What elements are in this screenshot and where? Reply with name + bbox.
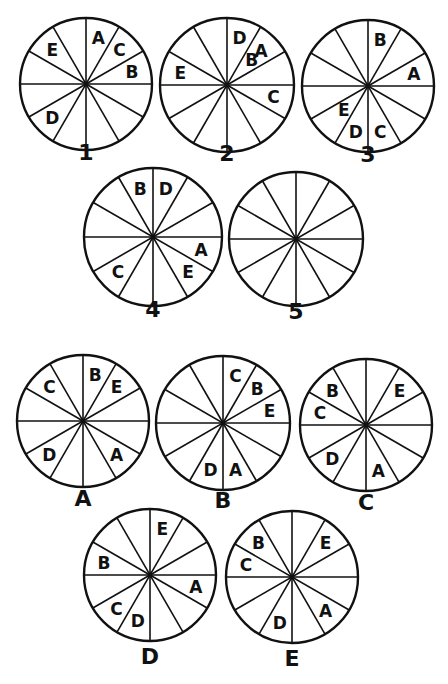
center-dot: [221, 421, 226, 426]
segment-letter: C: [110, 599, 122, 619]
segment-letter: D: [232, 28, 246, 48]
center-dot: [366, 84, 371, 89]
option-circle-D[interactable]: EADCBD: [84, 509, 216, 669]
option-label: C: [358, 490, 374, 515]
option-label: D: [141, 644, 159, 669]
question-label: 1: [78, 140, 93, 165]
segment-letter: B: [251, 379, 264, 399]
question-label: 4: [145, 297, 160, 322]
segment-letter: C: [43, 377, 55, 397]
segment-letter: B: [326, 381, 339, 401]
segment-letter: C: [229, 366, 241, 386]
option-circle-B[interactable]: CBEADB: [156, 356, 290, 513]
question-circle-1: ACBDE1: [20, 18, 152, 165]
segment-letter: D: [203, 460, 217, 480]
center-dot: [148, 573, 153, 578]
segment-letter: A: [92, 28, 106, 48]
segment-letter: A: [319, 601, 333, 621]
segment-letter: D: [131, 611, 145, 631]
segment-letter: D: [45, 108, 59, 128]
segment-letter: B: [125, 62, 138, 82]
option-label: B: [215, 488, 232, 513]
question-circle-3: BACDE3: [302, 20, 434, 167]
option-label: A: [74, 486, 91, 511]
question-circle-4: DAECB4: [84, 168, 222, 322]
segment-letter: A: [407, 64, 421, 84]
question-circle-2: DBACE2: [160, 18, 294, 166]
center-dot: [151, 235, 156, 240]
option-circle-C[interactable]: EADCBC: [300, 359, 432, 515]
segment-letter: D: [159, 179, 173, 199]
question-label: 5: [288, 299, 303, 324]
segment-letter: E: [182, 262, 194, 282]
segment-letter: C: [240, 555, 252, 575]
segment-letter: A: [255, 41, 269, 61]
puzzle-canvas: ACBDE1DBACE2BACDE3DAECB45BEADCACBEADBEAD…: [0, 0, 448, 684]
segment-letter: B: [134, 179, 147, 199]
option-circle-E[interactable]: EADCBE: [226, 511, 358, 671]
segment-letter: D: [325, 449, 339, 469]
segment-letter: E: [338, 100, 350, 120]
segment-letter: C: [374, 122, 386, 142]
segment-letter: D: [349, 122, 363, 142]
segment-letter: D: [273, 613, 287, 633]
segment-letter: A: [372, 461, 386, 481]
segment-letter: E: [264, 401, 276, 421]
question-label: 2: [219, 141, 234, 166]
segment-letter: E: [156, 519, 168, 539]
segment-letter: C: [267, 87, 279, 107]
segment-letter: C: [113, 40, 125, 60]
segment-letter: E: [394, 381, 406, 401]
segment-letter: E: [47, 40, 59, 60]
segment-letter: E: [111, 377, 123, 397]
segment-letter: C: [314, 403, 326, 423]
option-label: E: [284, 646, 299, 671]
segment-letter: B: [252, 533, 265, 553]
segment-letter: E: [320, 533, 332, 553]
segment-letter: B: [374, 30, 387, 50]
segment-letter: A: [229, 460, 243, 480]
segment-letter: A: [110, 445, 124, 465]
center-dot: [84, 82, 89, 87]
segment-letter: B: [98, 553, 111, 573]
segment-letter: A: [189, 577, 203, 597]
segment-letter: B: [89, 365, 102, 385]
option-circle-A[interactable]: BEADCA: [17, 355, 149, 511]
center-dot: [290, 575, 295, 580]
segment-letter: C: [112, 262, 124, 282]
center-dot: [364, 423, 369, 428]
center-dot: [81, 419, 86, 424]
segment-letter: D: [42, 445, 56, 465]
segment-letter: A: [194, 240, 208, 260]
question-circle-5: 5: [229, 172, 363, 324]
center-dot: [294, 237, 299, 242]
center-dot: [225, 83, 230, 88]
question-label: 3: [360, 142, 375, 167]
segment-letter: E: [175, 63, 187, 83]
